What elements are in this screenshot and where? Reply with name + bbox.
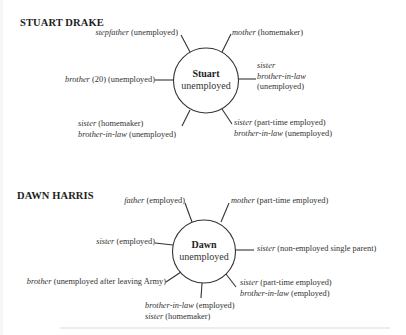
spoke-stepfather (181, 35, 190, 52)
relation-sister-brother-in-law-right: sister brother-in-law (unemployed) (257, 61, 306, 93)
relation-sister-single-parent: sister (non-employed single parent) (257, 244, 376, 255)
relation-mother: mother (part-time employed) (231, 196, 328, 207)
spoke-sister-employed (155, 243, 173, 245)
spoke-bil-sister-bottom (201, 283, 202, 298)
spoke-brother-army (166, 272, 181, 282)
center-node: Stuart unemployed (174, 68, 238, 92)
diagram-title: DAWN HARRIS (17, 190, 94, 201)
relation-sister-employed: sister (employed) (96, 237, 155, 248)
spoke-sister-bil-lower-right (226, 274, 236, 287)
spoke-mother (221, 203, 229, 222)
spoke-father (185, 203, 192, 222)
relation-sister-brother-in-law-lower-left: sister (homemaker) brother-in-law (unemp… (78, 119, 176, 140)
center-name: Dawn (172, 239, 236, 251)
relation-father: father (employed) (124, 196, 185, 207)
relation-brother-army: brother (unemployed after leaving Army) (27, 277, 166, 288)
center-name: Stuart (174, 68, 238, 80)
center-node: Dawn unemployed (172, 239, 236, 263)
center-status: unemployed (174, 80, 238, 92)
relation-sister-brother-in-law-lower-right: sister (part-time employed) brother-in-l… (240, 278, 332, 299)
spoke-sister-bil-lower-left (182, 110, 190, 126)
spoke-mother (222, 34, 231, 52)
relation-brother: brother (20) (unemployed) (65, 75, 155, 86)
center-status: unemployed (172, 251, 236, 263)
bleed-through-text (60, 327, 390, 329)
relation-mother: mother (homemaker) (232, 28, 303, 39)
relation-stepfather: stepfather (unemployed) (95, 28, 178, 39)
diagram-title: STUART DRAKE (20, 17, 104, 28)
relation-brother-in-law-sister-bottom: brother-in-law (employed) sister (homema… (145, 301, 235, 322)
spoke-sister-bil-lower-right (222, 109, 232, 124)
relation-sister-brother-in-law-lower-right: sister (part-time employed) brother-in-l… (234, 118, 332, 139)
